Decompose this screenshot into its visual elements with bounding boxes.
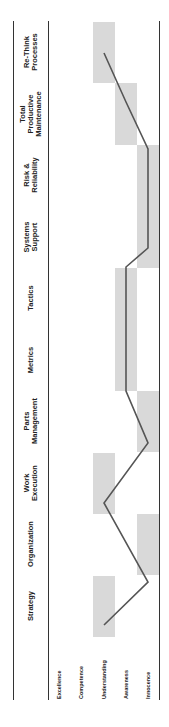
maturity-chart: Strategy Organization Work Execution Par… [0, 0, 169, 727]
maturity-profile-line [0, 0, 169, 727]
